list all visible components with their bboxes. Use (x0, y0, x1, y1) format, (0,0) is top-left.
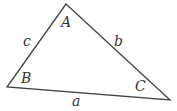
triangle-diagram: A B C a b c (0, 0, 177, 111)
vertex-label-a: A (59, 14, 71, 30)
side-label-b: b (114, 33, 123, 49)
vertex-label-c: C (135, 78, 146, 94)
vertex-label-b: B (20, 70, 31, 86)
side-label-c: c (23, 33, 31, 49)
side-label-a: a (72, 93, 80, 109)
